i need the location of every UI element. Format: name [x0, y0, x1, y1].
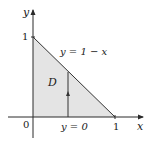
x-tick-label-1: 1	[113, 122, 119, 132]
region-diagram: y x 0 1 1 D y = 1 − x y = 0	[0, 0, 157, 143]
x-axis-label: x	[137, 121, 143, 132]
upper-boundary-equation: y = 1 − x	[60, 47, 107, 57]
origin-label: 0	[23, 120, 29, 130]
y-axis-label: y	[23, 7, 29, 18]
region-label: D	[48, 77, 57, 88]
y-tick-label-1: 1	[22, 32, 28, 42]
lower-boundary-equation: y = 0	[61, 122, 88, 132]
